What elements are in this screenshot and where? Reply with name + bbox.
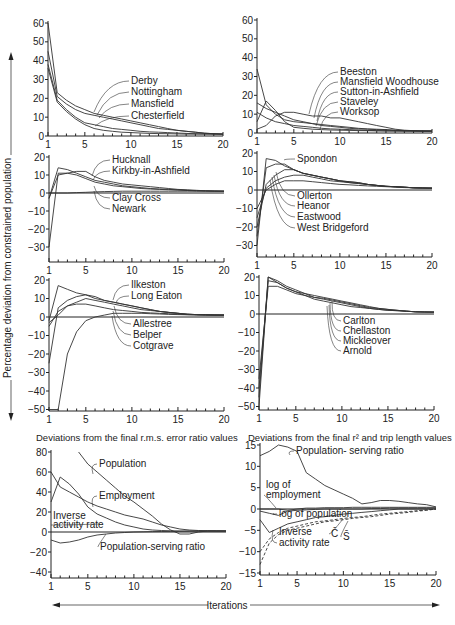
series-line [257,181,432,209]
x-tick-label: 20 [218,265,230,276]
y-tick-label: 0 [39,312,45,323]
y-tick-label: 0 [250,504,256,515]
series-label: log of population [279,508,352,519]
y-tick-label: 60 [33,18,45,29]
leader-line [114,306,131,324]
y-tick-label: −10 [28,206,45,217]
leader-line [92,160,110,176]
y-tick-label: 10 [33,112,45,123]
series-label: Spondon [297,153,337,164]
series-label: Employment [99,490,155,501]
x-tick-label: 15 [384,578,396,589]
x-tick-label: 5 [82,139,88,150]
x-tick-label: 1 [254,260,260,271]
x-tick-label: 20 [428,413,440,424]
y-tick-label: −50 [238,401,255,412]
iterations-label: Iterations [206,600,247,611]
y-tick-label: −20 [28,349,45,360]
arrow-up-icon [9,52,14,60]
x-tick-label: 5 [83,265,89,276]
x-tick-label: 5 [294,578,300,589]
chart-panel-p2: 010203040506015101520BeestonMansfield Wo… [242,15,439,148]
y-tick-label: 20 [33,93,45,104]
x-tick-label: 10 [334,136,346,147]
series-label: Hucknall [112,154,150,165]
series-label: S̄ [343,530,350,542]
x-tick-label: 10 [334,260,346,271]
y-tick-label: 40 [36,487,48,498]
y-tick-label: 20 [34,152,46,163]
y-tick-label: 20 [36,507,48,518]
arrow-down-icon [9,413,14,421]
arrow-right-icon [432,603,440,608]
y-tick-label: −10 [238,327,255,338]
x-tick-label: 1 [45,139,51,150]
y-tick-label: 10 [242,166,254,177]
x-tick-label: 15 [172,414,184,425]
x-tick-label: 1 [256,413,262,424]
y-tick-label: 40 [242,52,254,63]
y-tick-label: 0 [247,128,253,139]
y-tick-label: 30 [33,74,45,85]
leader-line [94,191,110,209]
y-tick-label: 50 [33,36,45,47]
x-tick-label: 20 [220,581,232,592]
x-tick-label: 15 [171,139,183,150]
series-label: Heanor [297,200,330,211]
series-label: Ilkeston [131,279,165,290]
series-label: Newark [112,203,147,214]
y-tick-label: −40 [238,383,255,394]
x-tick-label: 5 [293,413,299,424]
x-tick-label: 10 [128,581,140,592]
chart-panel-p4: −30−20−100102015101520SpondonOllertonHea… [236,148,438,272]
y-tick-label: 0 [38,131,44,142]
y-tick-label: 20 [244,272,256,283]
y-tick-label: 80 [36,447,48,458]
y-tick-label: −30 [238,364,255,375]
arrow-left-icon [52,603,60,608]
leader-line [116,296,129,303]
bottom-right-title: Deviations from the final r² and trip le… [248,432,452,443]
series-line [257,170,432,227]
y-tick-label: 0 [247,185,253,196]
y-tick-label: 50 [242,33,254,44]
leader-line [284,159,295,160]
x-tick-label: 20 [217,139,229,150]
y-tick-label: 40 [33,55,45,66]
x-tick-label: 20 [426,136,438,147]
series-label: Population-serving ratio [100,541,205,552]
series-label: Belper [133,329,163,340]
leader-line [317,92,338,121]
leader-line [329,305,341,341]
x-tick-label: 15 [380,136,392,147]
x-tick-label: 1 [254,136,260,147]
series-label: West Bridgeford [297,222,369,233]
x-tick-label: 10 [336,413,348,424]
leader-line [330,303,341,331]
y-tick-label: −50 [28,404,45,415]
y-tick-label: 10 [34,170,46,181]
y-tick-label: −40 [28,386,45,397]
y-tick-label: −5 [245,525,257,536]
global-y-label: Percentage deviation from constrained po… [2,158,13,378]
y-tick-label: 20 [242,90,254,101]
y-tick-label: 0 [249,309,255,320]
y-tick-label: −40 [30,567,47,578]
leader-line [316,102,338,126]
y-tick-label: −10 [236,203,253,214]
chart-panel-p5: −50−40−30−20−100102015101520IlkestonLong… [28,275,230,426]
series-label: Worksop [340,106,380,117]
x-tick-label: 10 [126,265,138,276]
x-tick-label: 20 [218,414,230,425]
x-tick-label: 20 [426,260,438,271]
chart-panel-p1: 010203040506015101520DerbyNottinghamMans… [33,18,229,151]
series-label: Kirkby-in-Ashfield [112,165,190,176]
series-label: Long Eaton [131,290,182,301]
x-tick-label: 15 [382,413,394,424]
series-label: Population- serving ratio [296,445,404,456]
x-tick-label: 15 [172,265,184,276]
y-tick-label: 0 [39,188,45,199]
y-tick-label: −30 [236,240,253,251]
y-tick-label: −10 [28,330,45,341]
leader-line [289,451,294,455]
